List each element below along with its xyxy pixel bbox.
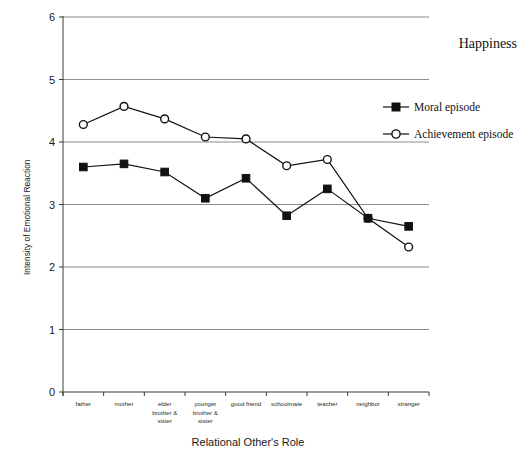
x-tick-label-2: elderbrother &sister: [152, 400, 177, 424]
chart-canvas: 0123456 fathermotherelderbrother &sister…: [0, 0, 531, 461]
data-point-1-4: [242, 135, 250, 143]
x-tick-label-5: schoolmate: [271, 400, 303, 407]
y-tick-label-1: 1: [49, 324, 55, 336]
x-tick-labels-group: fathermotherelderbrother &sisteryoungerb…: [76, 400, 420, 424]
y-tick-label-3: 3: [49, 199, 55, 211]
x-tick-label-1: mother: [115, 400, 134, 407]
data-point-0-2: [161, 168, 169, 176]
data-point-0-3: [202, 194, 210, 202]
y-axis-title: Intensity of Emotional Reaction: [22, 159, 32, 275]
x-tick-label-6: teacher: [317, 400, 337, 407]
y-tick-label-4: 4: [49, 136, 55, 148]
x-tick-label-0: father: [76, 400, 92, 407]
axes-group: [59, 16, 63, 396]
y-tick-label-6: 6: [49, 11, 55, 23]
data-point-0-0: [80, 163, 88, 171]
chart-figure: 0123456 fathermotherelderbrother &sister…: [0, 0, 531, 461]
chart-title: Happiness: [459, 36, 517, 51]
data-point-1-2: [161, 115, 169, 123]
x-tick-label-7: neighbor: [356, 400, 380, 407]
series-line-0: [83, 164, 408, 227]
data-point-0-7: [364, 214, 372, 222]
legend: Moral episodeAchievement episode: [383, 101, 513, 141]
data-point-0-4: [242, 174, 250, 182]
data-point-1-3: [201, 133, 209, 141]
data-point-0-1: [120, 160, 128, 168]
legend-marker-open-circle-icon: [392, 130, 400, 138]
data-point-0-5: [283, 212, 291, 220]
data-point-1-5: [283, 162, 291, 170]
y-tick-labels-group: 0123456: [49, 11, 55, 398]
x-tick-label-4: good friend: [231, 400, 262, 407]
legend-marker-filled-square-icon: [392, 103, 400, 111]
data-point-1-0: [79, 121, 87, 129]
x-axis-title: Relational Other's Role: [192, 436, 305, 448]
series-moral-episode: [80, 160, 413, 230]
data-point-1-1: [120, 102, 128, 110]
gridlines-group: [63, 17, 429, 392]
y-tick-label-0: 0: [49, 386, 55, 398]
y-tick-label-2: 2: [49, 261, 55, 273]
data-point-0-6: [324, 185, 332, 193]
legend-label-0: Moral episode: [414, 101, 480, 114]
y-tick-label-5: 5: [49, 74, 55, 86]
data-point-0-8: [405, 223, 413, 231]
data-point-1-8: [405, 243, 413, 251]
x-tick-label-3: youngerbrother &sister: [193, 400, 218, 424]
legend-label-1: Achievement episode: [414, 128, 513, 141]
data-point-1-6: [323, 156, 331, 164]
x-tickmarks-group: [63, 392, 429, 396]
x-tick-label-8: stranger: [397, 400, 419, 407]
